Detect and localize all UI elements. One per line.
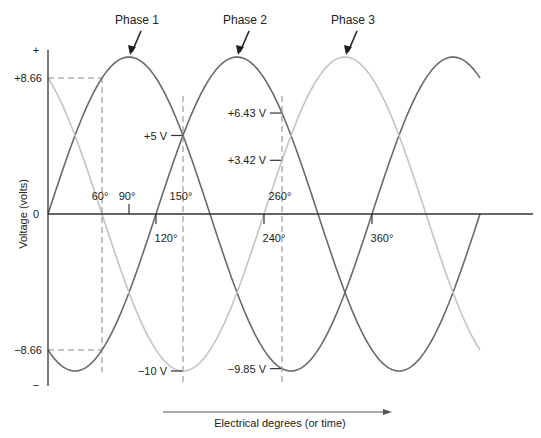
angle-label: 360° [371,232,394,244]
voltage-annotation: +5 V [144,130,168,142]
axis-value-label: +8.66 [14,72,42,84]
x-axis-title: Electrical degrees (or time) [214,417,345,429]
voltage-annotation: −9.85 V [228,363,267,375]
axis-value-label: −8.66 [14,344,42,356]
voltage-annotation: −10 V [138,365,168,377]
angle-label: 120° [155,232,178,244]
time-arrow-head [383,409,392,415]
angle-label: 260° [269,190,292,202]
angle-label: 90° [119,190,136,202]
time-arrow: Electrical degrees (or time) [163,409,392,429]
voltage-annotation: +6.43 V [228,107,267,119]
angle-label: 150° [170,190,193,202]
phase-3-label: Phase 3 [331,13,375,27]
phase-labels: Phase 1Phase 2Phase 3 [115,13,375,55]
three-phase-waveform-diagram: +8.66−8.66 + − 0 Voltage (volts) 60°90°1… [0,0,541,438]
voltage-annotation: +3.42 V [228,154,267,166]
y-axis-top-label: + [33,44,39,56]
phase-1-label: Phase 1 [115,13,159,27]
y-axis-title: Voltage (volts) [17,179,29,249]
angle-label: 60° [92,190,109,202]
angle-markers: 60°90°120°150°240°260°360° [92,77,394,385]
y-axis-bottom-label: − [33,379,39,391]
phase-2-label: Phase 2 [223,13,267,27]
y-zero-label: 0 [33,208,39,220]
